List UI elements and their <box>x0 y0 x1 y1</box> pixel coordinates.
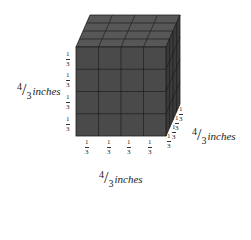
left-edge-label: 13 <box>66 72 70 89</box>
bottom-edge-label: 13 <box>148 139 152 156</box>
left-edge-label: 13 <box>66 51 70 68</box>
bottom-edge-label: 13 <box>107 139 111 156</box>
width-dimension-label: 4/3inches <box>99 168 143 187</box>
left-edge-label: 13 <box>66 94 70 111</box>
depth-edge-label: 13 <box>179 106 183 123</box>
bottom-edge-label: 13 <box>85 139 89 156</box>
height-dimension-label: 4/3inches <box>17 80 61 99</box>
depth-dimension-label: 4/3inches <box>192 125 236 144</box>
left-edge-label: 13 <box>66 116 70 133</box>
depth-edge-label: 13 <box>175 115 179 132</box>
bottom-edge-label: 13 <box>127 139 131 156</box>
depth-edge-label: 13 <box>167 133 171 150</box>
